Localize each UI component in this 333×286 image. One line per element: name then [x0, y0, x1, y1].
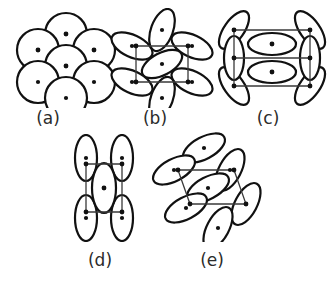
panel-e-shape-group	[150, 128, 266, 242]
panel-e-center-dot-7	[216, 226, 220, 230]
panel-c-lattice-point-1	[232, 28, 237, 33]
panel-b-center-dot-7	[160, 96, 164, 100]
panel-a-lattice-point-4	[64, 64, 69, 69]
panel-e-center-dot-1	[202, 146, 206, 150]
panel-e-lattice-point-3	[244, 202, 249, 207]
panel-a-center-dot-5	[36, 80, 40, 84]
panel-c-lattice-point-8	[270, 70, 275, 75]
panel-e-center-dot-2	[172, 168, 176, 172]
panel-b-center-dot-2	[130, 44, 134, 48]
panel-a-center-dot-7	[64, 96, 68, 100]
panel-e-lattice-point-4	[188, 202, 193, 207]
panel-c-lattice-point-7	[270, 42, 275, 47]
panel-d-lattice-point-4	[84, 210, 89, 215]
panel-a-lattice-point-3	[92, 48, 97, 53]
panel-label-e: (e)	[192, 250, 232, 270]
panel-b-diagram	[110, 8, 214, 108]
panel-b-lattice-point-1	[134, 44, 139, 49]
panel-e-lattice-point-2	[232, 168, 237, 173]
panel-e-center-dot-4	[206, 186, 210, 190]
panel-a-shape-group	[17, 13, 115, 108]
panel-c-lattice-point-6	[308, 84, 313, 89]
panel-e-lattice-point-1	[176, 168, 181, 173]
panel-c-lattice-point-5	[232, 84, 237, 89]
panel-b-center-dot-1	[160, 28, 164, 32]
panel-b-center-dot-4	[160, 62, 164, 66]
panel-d-lattice-point-3	[120, 210, 125, 215]
panel-d-lattice-point-1	[84, 162, 89, 167]
panel-a-lattice-point-2	[36, 48, 41, 53]
panel-a-lattice-point-1	[64, 32, 69, 37]
panel-d-center-dot-1	[84, 156, 88, 160]
panel-e-diagram	[150, 128, 266, 242]
panel-d-center-dot-2	[120, 156, 124, 160]
panel-label-d: (d)	[80, 250, 120, 270]
panel-b-center-dot-6	[190, 80, 194, 84]
panel-d-lattice-point-5	[102, 186, 107, 191]
panel-c-lattice-point-3	[308, 56, 313, 61]
panel-e-center-dot-3	[228, 168, 232, 172]
panel-b-lattice-point-2	[186, 44, 191, 49]
panel-c-diagram	[214, 8, 330, 108]
panel-a-circle-7	[45, 77, 87, 108]
panel-d-lattice-point-2	[120, 162, 125, 167]
panel-label-c: (c)	[248, 108, 288, 128]
panel-b-center-dot-5	[130, 80, 134, 84]
panel-e-center-dot-5	[184, 206, 188, 210]
panel-label-a: (a)	[28, 108, 68, 128]
panel-b-center-dot-3	[190, 44, 194, 48]
panel-d-diagram	[64, 134, 144, 242]
figure-root: (a)(b)(c)(d)(e)	[0, 0, 333, 286]
panel-a-center-dot-6	[92, 80, 96, 84]
panel-c-lattice-point-4	[232, 56, 237, 61]
panel-b-shape-group	[110, 8, 214, 108]
panel-d-center-dot-3	[84, 216, 88, 220]
panel-a-diagram	[14, 8, 118, 108]
panel-c-lattice-point-2	[308, 28, 313, 33]
panel-d-center-dot-4	[120, 216, 124, 220]
panel-label-b: (b)	[135, 108, 175, 128]
panel-b-lattice-point-4	[134, 80, 139, 85]
panel-b-lattice-point-3	[186, 80, 191, 85]
